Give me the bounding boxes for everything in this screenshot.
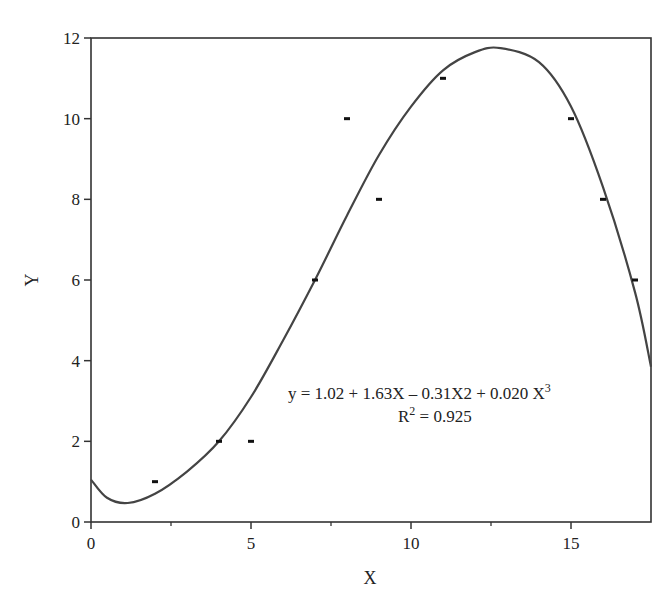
data-point: [632, 279, 638, 282]
r2-base: R: [398, 407, 410, 426]
x-tick-label: 5: [247, 534, 256, 553]
plot-border: [91, 38, 651, 522]
y-tick-label: 10: [63, 110, 80, 129]
x-tick-label: 10: [403, 534, 420, 553]
data-point: [312, 279, 318, 282]
plot-frame: [91, 38, 651, 522]
y-tick-label: 0: [72, 513, 81, 532]
equation-annotation: y = 1.02 + 1.63X – 0.31X2 + 0.020 X3: [288, 381, 551, 403]
data-point: [216, 440, 222, 443]
y-tick-label: 8: [72, 190, 81, 209]
equation-text: y = 1.02 + 1.63X – 0.31X2 + 0.020 X: [288, 384, 545, 403]
chart: 051015 024681012 X Y y = 1.02 + 1.63X – …: [0, 0, 672, 611]
y-tick-label: 4: [72, 352, 81, 371]
x-tick-label: 15: [563, 534, 580, 553]
data-point: [344, 117, 350, 120]
x-axis-title: X: [364, 568, 377, 588]
data-points: [152, 77, 638, 483]
x-axis-ticks: 051015: [87, 522, 580, 553]
fitted-curve: [91, 47, 651, 503]
data-point: [152, 480, 158, 483]
x-tick-label: 0: [87, 534, 96, 553]
data-point: [568, 117, 574, 120]
data-point: [376, 198, 382, 201]
data-point: [440, 77, 446, 80]
y-tick-label: 2: [72, 432, 81, 451]
data-point: [248, 440, 254, 443]
equation-superscript: 3: [545, 381, 551, 395]
r2-value: = 0.925: [415, 407, 471, 426]
y-tick-label: 6: [72, 271, 81, 290]
y-axis-ticks: 024681012: [63, 29, 91, 532]
y-axis-title: Y: [22, 274, 42, 287]
data-point: [600, 198, 606, 201]
y-tick-label: 12: [63, 29, 80, 48]
r-squared-annotation: R2 = 0.925: [398, 404, 472, 426]
